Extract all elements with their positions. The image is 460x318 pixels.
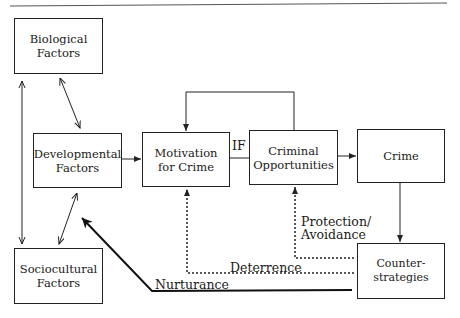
- node-biological-factors: Biological Factors: [14, 18, 103, 74]
- edge-opportunities-motivation-loop: [186, 92, 294, 131]
- node-motivation-for-crime: Motivation for Crime: [142, 132, 230, 187]
- edge-biological-developmental: [60, 78, 80, 128]
- node-counter-strategies: Counter- strategies: [357, 243, 445, 299]
- top-rule: [10, 3, 447, 6]
- node-sociocultural-factors: Sociocultural Factors: [14, 248, 103, 304]
- edge-label-if: IF: [232, 139, 246, 152]
- edge-label-nurturance: Nurturance: [155, 278, 229, 291]
- edge-label-protection-avoidance: Protection/ Avoidance: [301, 215, 371, 241]
- edge-developmental-sociocultural: [59, 193, 77, 244]
- node-criminal-opportunities: Criminal Opportunities: [249, 130, 338, 185]
- node-developmental-factors: Developmental Factors: [33, 133, 122, 188]
- node-crime: Crime: [357, 129, 445, 183]
- edge-label-deterrence: Deterrence: [230, 261, 302, 274]
